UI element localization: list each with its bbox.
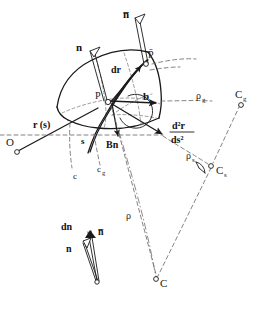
label-Cg-sub: g [243, 95, 247, 103]
label-rho-s-base: ρ [186, 150, 191, 161]
label-Cs-base: C [216, 164, 223, 176]
label-rho-g: ρ g [196, 90, 206, 104]
label-Bn: Bn [106, 139, 119, 150]
label-cg-lower-base: c [97, 164, 101, 174]
label-rho-g-sub: g [202, 96, 206, 104]
label-r-of-s: r (s) [33, 119, 50, 131]
vector-d2r-ds2 [112, 104, 162, 134]
label-n-top: n [76, 41, 82, 53]
label-Cs-sub: s [224, 171, 227, 179]
label-Cg-base: C [235, 88, 242, 100]
center-C-marker [154, 277, 159, 282]
label-cg-lower: c g [97, 164, 106, 176]
label-Cs: C s [216, 164, 227, 179]
label-b: b [143, 90, 149, 102]
label-s: s [81, 136, 85, 146]
label-inset-dn: dn [61, 221, 73, 232]
label-Cg: C g [235, 88, 247, 103]
projected-curves [70, 123, 100, 168]
label-rho: ρ [126, 210, 131, 221]
label-n-bar-top: n̅ [123, 8, 129, 20]
label-inset-n: n [66, 243, 72, 254]
position-vector-r [15, 108, 98, 154]
label-d2r-denominator: ds² [171, 134, 183, 145]
label-rho-g-base: ρ [196, 90, 201, 101]
label-inset-n-bar: n̅ [98, 226, 104, 237]
label-d2r-numerator: d²r [172, 120, 186, 131]
center-Cs-marker [209, 164, 214, 169]
label-origin: O [6, 136, 14, 148]
label-C-center: C [160, 277, 167, 289]
differential-geometry-diagram: n̅ n P̄ dr P b r (s) O s Bn d²r ds² ρ g … [0, 0, 267, 312]
label-cg-lower-sub: g [102, 169, 106, 176]
inset-base-marker [95, 280, 99, 284]
origin-marker [15, 150, 20, 155]
label-rho-s-sub: s [192, 156, 195, 164]
normal-vector-nbar-at-pbar [135, 14, 148, 64]
label-c-curve: c [73, 171, 77, 181]
label-P: P [95, 90, 101, 101]
point-P-marker [105, 99, 110, 104]
center-Cg-marker [239, 103, 244, 108]
label-P-bar: P̄ [148, 49, 154, 60]
point-Pbar-marker [144, 62, 149, 67]
label-dr: dr [111, 64, 122, 75]
inset-normal-variation [83, 230, 99, 284]
right-angle-marker-cs [196, 162, 205, 173]
label-d2r-ds2: d²r ds² [170, 120, 194, 145]
label-rho-s: ρ s [186, 150, 195, 164]
